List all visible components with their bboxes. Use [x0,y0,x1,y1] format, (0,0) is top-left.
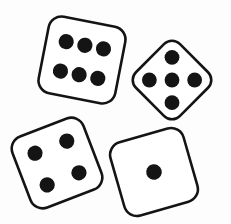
die-top-left[interactable]: 6 [36,14,127,105]
die-face [36,14,127,105]
dice-illustration: 6541 [0,0,231,224]
dice-scene: 6541 [0,0,231,224]
